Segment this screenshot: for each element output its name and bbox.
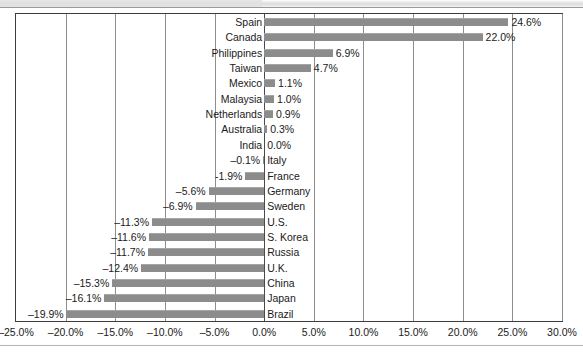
value-label: –11.3% bbox=[114, 214, 149, 230]
bar[interactable] bbox=[148, 248, 264, 256]
category-label: Mexico bbox=[16, 75, 262, 91]
x-tick-label: –25.0% bbox=[0, 325, 34, 340]
value-label: –11.6% bbox=[111, 229, 146, 245]
bar[interactable] bbox=[263, 156, 264, 164]
bar[interactable] bbox=[112, 279, 264, 287]
bar[interactable] bbox=[149, 233, 264, 241]
bar-row: Philippines6.9% bbox=[16, 45, 562, 60]
bar-row: S. Korea–11.6% bbox=[16, 229, 562, 244]
value-label: 1.1% bbox=[278, 75, 302, 91]
bar-row: Russia–11.7% bbox=[16, 244, 562, 259]
scan-artifact-rule-bottom bbox=[0, 345, 583, 346]
x-tick-label: –10.0% bbox=[147, 325, 183, 340]
category-label: Russia bbox=[267, 244, 299, 260]
category-label: Italy bbox=[267, 152, 286, 168]
x-tick-label: 10.0% bbox=[349, 325, 379, 340]
category-label: U.S. bbox=[267, 214, 287, 230]
gridline-30 bbox=[562, 14, 563, 321]
bar-row: China–15.3% bbox=[16, 275, 562, 290]
value-label: 0.3% bbox=[270, 121, 294, 137]
bar-row: Brazil–19.9% bbox=[16, 306, 562, 321]
value-label: –11.7% bbox=[110, 244, 145, 260]
bar[interactable] bbox=[264, 18, 508, 26]
bar[interactable] bbox=[67, 310, 265, 318]
plot-area: Spain24.6%Canada22.0%Philippines6.9%Taiw… bbox=[15, 13, 563, 322]
category-label: Netherlands bbox=[16, 106, 262, 122]
x-axis-tick-labels: –25.0%–20.0%–15.0%–10.0%–5.0%0.0%5.0%10.… bbox=[0, 325, 583, 341]
category-label: India bbox=[16, 137, 262, 153]
bar[interactable] bbox=[264, 95, 274, 103]
category-label: France bbox=[267, 168, 300, 184]
bar[interactable] bbox=[264, 110, 273, 118]
bar-row: Japan–16.1% bbox=[16, 290, 562, 305]
x-tick-label: –20.0% bbox=[48, 325, 84, 340]
x-tick-label: 20.0% bbox=[448, 325, 478, 340]
bar[interactable] bbox=[264, 79, 275, 87]
bar[interactable] bbox=[196, 202, 265, 210]
bar-row: India0.0% bbox=[16, 137, 562, 152]
value-label: 24.6% bbox=[511, 14, 541, 30]
category-label: Germany bbox=[267, 183, 310, 199]
category-label: China bbox=[267, 275, 294, 291]
value-label: –19.9% bbox=[28, 306, 64, 322]
value-label: –15.3% bbox=[74, 275, 110, 291]
x-tick-label: 0.0% bbox=[252, 325, 276, 340]
category-label: Philippines bbox=[16, 45, 262, 61]
category-label: Brazil bbox=[267, 306, 293, 322]
bar-row: U.K.–12.4% bbox=[16, 260, 562, 275]
value-label: –6.9% bbox=[163, 198, 193, 214]
bar[interactable] bbox=[209, 187, 265, 195]
x-tick-label: 5.0% bbox=[302, 325, 326, 340]
value-label: 6.9% bbox=[336, 45, 360, 61]
bar-row: Germany–5.6% bbox=[16, 183, 562, 198]
bar-row: U.S.–11.3% bbox=[16, 214, 562, 229]
x-tick-label: 25.0% bbox=[497, 325, 527, 340]
bar[interactable] bbox=[152, 218, 264, 226]
bar-row: France-1.9% bbox=[16, 168, 562, 183]
value-label: –0.1% bbox=[230, 152, 260, 168]
value-label: 0.9% bbox=[276, 106, 300, 122]
bar-row: Taiwan4.7% bbox=[16, 60, 562, 75]
bar[interactable] bbox=[245, 172, 264, 180]
scan-artifact-rule-top bbox=[0, 7, 583, 8]
value-label: 1.0% bbox=[277, 91, 301, 107]
bar-row: Sweden–6.9% bbox=[16, 198, 562, 213]
x-tick-label: 15.0% bbox=[398, 325, 428, 340]
value-label: -1.9% bbox=[215, 168, 242, 184]
bar-row: Netherlands0.9% bbox=[16, 106, 562, 121]
bar-row: Australia0.3% bbox=[16, 121, 562, 136]
category-label: Australia bbox=[16, 121, 262, 137]
category-label: U.K. bbox=[267, 260, 287, 276]
bar-row: Spain24.6% bbox=[16, 14, 562, 29]
value-label: 0.0% bbox=[267, 137, 291, 153]
x-tick-label: 30.0% bbox=[547, 325, 577, 340]
bar[interactable] bbox=[264, 125, 267, 133]
value-label: 4.7% bbox=[314, 60, 338, 76]
scan-artifact-tint bbox=[0, 0, 262, 7]
value-label: –5.6% bbox=[176, 183, 206, 199]
bar[interactable] bbox=[264, 49, 333, 57]
bar-row: Malaysia1.0% bbox=[16, 91, 562, 106]
bar[interactable] bbox=[264, 64, 311, 72]
bar-row: Canada22.0% bbox=[16, 29, 562, 44]
category-label: Malaysia bbox=[16, 91, 262, 107]
value-label: –16.1% bbox=[66, 290, 102, 306]
category-label: Japan bbox=[267, 290, 296, 306]
value-label: –12.4% bbox=[102, 260, 138, 276]
bar-chart: Spain24.6%Canada22.0%Philippines6.9%Taiw… bbox=[0, 9, 583, 345]
bar[interactable] bbox=[264, 33, 482, 41]
x-tick-label: –5.0% bbox=[200, 325, 230, 340]
value-label: 22.0% bbox=[486, 29, 516, 45]
category-label: Taiwan bbox=[16, 60, 262, 76]
scan-artifact-top-bar bbox=[0, 0, 583, 7]
bar-row: Mexico1.1% bbox=[16, 75, 562, 90]
x-tick-label: –15.0% bbox=[97, 325, 133, 340]
bar[interactable] bbox=[104, 294, 264, 302]
category-label: Spain bbox=[16, 14, 262, 30]
category-label: S. Korea bbox=[267, 229, 308, 245]
category-label: Canada bbox=[16, 29, 262, 45]
bar[interactable] bbox=[141, 264, 264, 272]
category-label: Sweden bbox=[267, 198, 305, 214]
bar-row: Italy–0.1% bbox=[16, 152, 562, 167]
